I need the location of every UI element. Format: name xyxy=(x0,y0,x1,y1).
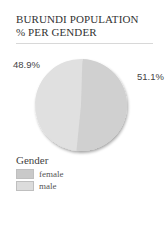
legend-item-female: female xyxy=(16,169,63,179)
slice-label-female: 51.1% xyxy=(137,71,164,82)
legend-swatch-male xyxy=(16,181,34,191)
legend-item-male: male xyxy=(16,181,57,191)
slice-label-male: 48.9% xyxy=(13,59,40,70)
pie-slice-female xyxy=(76,59,127,151)
pie-slice-male xyxy=(35,59,82,151)
legend-title: Gender xyxy=(16,154,48,166)
legend-label-male: male xyxy=(39,181,57,191)
legend-swatch-female xyxy=(16,169,34,179)
legend-label-female: female xyxy=(39,169,63,179)
